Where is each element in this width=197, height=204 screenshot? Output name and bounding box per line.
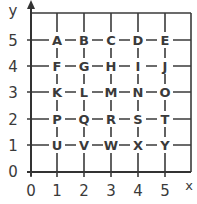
x-tick-label-5: 5 <box>160 182 170 200</box>
point-letter: E <box>161 33 170 48</box>
point-letter: O <box>159 85 170 100</box>
point-letter: M <box>105 85 118 100</box>
point-letter: K <box>52 85 63 100</box>
point-letter: Y <box>159 138 170 153</box>
y-axis-arrow-icon <box>27 0 35 9</box>
point-letter: J <box>162 59 168 74</box>
point-letter: T <box>161 112 170 127</box>
point-letter: C <box>106 33 116 48</box>
x-tick-label-0: 0 <box>26 182 36 200</box>
point-letter: G <box>79 59 90 74</box>
point-letter: I <box>136 59 141 74</box>
point-letter: D <box>133 33 144 48</box>
x-tick-label-2: 2 <box>79 182 89 200</box>
point-letter: H <box>106 59 117 74</box>
y-tick-label-1: 1 <box>8 137 18 155</box>
point-letter: F <box>53 59 62 74</box>
x-tick-label-4: 4 <box>133 182 143 200</box>
x-tick-label-3: 3 <box>106 182 116 200</box>
point-letter: P <box>52 112 62 127</box>
x-axis-label: x <box>185 178 193 193</box>
y-axis-label: y <box>9 2 18 20</box>
point-letter: Q <box>78 112 89 127</box>
point-letter: R <box>106 112 116 127</box>
y-tick-label-5: 5 <box>8 32 18 50</box>
y-tick-label-3: 3 <box>8 84 18 102</box>
y-tick-label-4: 4 <box>8 58 18 76</box>
y-tick-label-2: 2 <box>8 111 18 129</box>
point-letter: V <box>79 138 89 153</box>
point-letter: A <box>52 33 62 48</box>
point-letter: N <box>133 85 144 100</box>
point-letter: B <box>79 33 89 48</box>
y-tick-label-0: 0 <box>8 163 18 181</box>
point-letter: X <box>133 138 143 153</box>
point-letter: S <box>133 112 142 127</box>
x-tick-label-1: 1 <box>52 182 62 200</box>
point-letter: U <box>52 138 63 153</box>
coordinate-grid: y x 5 4 3 2 1 0 0 1 2 3 4 5 A B C D E F … <box>0 0 197 204</box>
point-letter: W <box>104 138 118 153</box>
point-letter: L <box>80 85 88 100</box>
